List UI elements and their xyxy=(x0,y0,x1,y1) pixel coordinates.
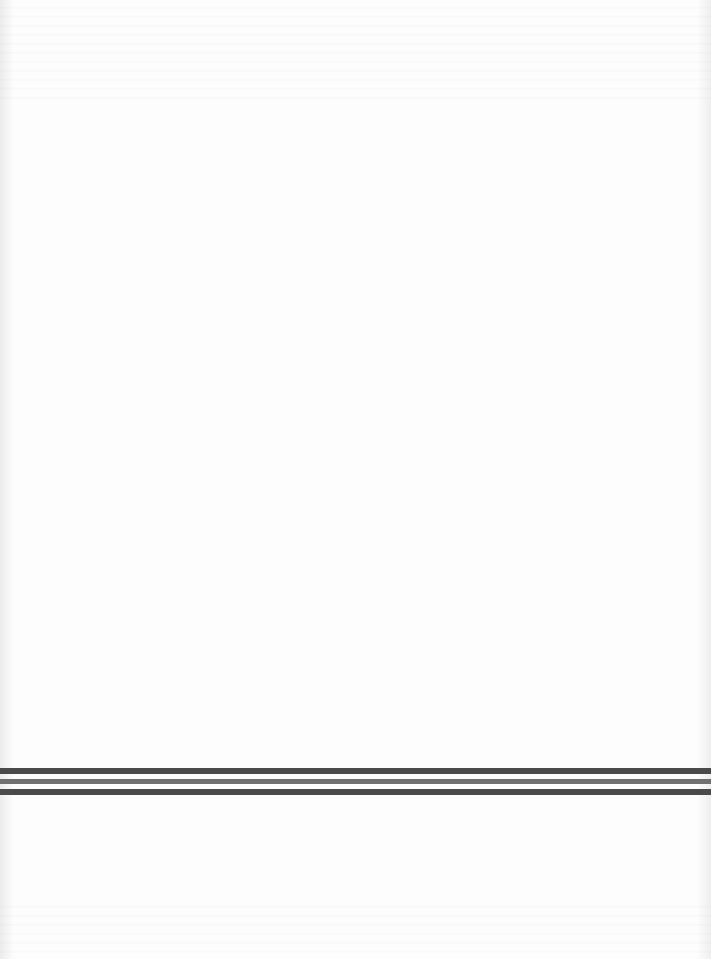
rule-line-3 xyxy=(0,789,711,795)
scan-edge-shadow-right xyxy=(697,0,711,959)
document-page xyxy=(0,0,711,959)
rule-line-2 xyxy=(0,779,711,784)
scan-edge-shadow-left xyxy=(0,0,14,959)
scan-bleed-through-bottom xyxy=(0,900,711,959)
rule-line-1 xyxy=(0,768,711,774)
scan-bleed-through-top xyxy=(0,0,711,105)
